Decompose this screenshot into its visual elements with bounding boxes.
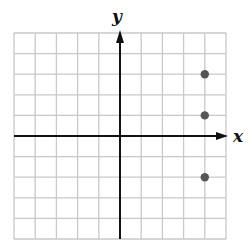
data-point: [201, 111, 209, 119]
x-axis-label: x: [232, 126, 244, 146]
y-axis-label: y: [111, 6, 123, 26]
axes: [14, 30, 228, 239]
data-point: [201, 173, 209, 181]
y-axis-arrow-icon: [116, 30, 124, 43]
coordinate-plane: x y: [0, 0, 250, 247]
data-point: [201, 70, 209, 78]
